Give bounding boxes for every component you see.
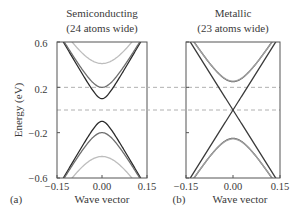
band-linear-down	[186, 110, 280, 185]
y-tick-0.2: 0.2	[34, 84, 47, 95]
band-valence-1	[57, 121, 147, 189]
panel-a-xlabel: Wave vector	[75, 193, 130, 205]
band-conduction-2	[57, 30, 147, 87]
panel-a-plot-area	[57, 22, 147, 198]
y-tick-neg0.2: −0.2	[28, 128, 47, 139]
panel-b-title: Metallic	[215, 7, 252, 19]
x-tick-0.00: 0.00	[224, 181, 242, 192]
y-axis-label: Energy (eV)	[12, 82, 25, 137]
x-tick-neg0.15: −0.15	[45, 181, 69, 192]
x-tick-0.00: 0.00	[93, 181, 111, 192]
panel-a-title: Semiconducting	[66, 7, 138, 19]
y-tick-0.6: 0.6	[34, 38, 47, 49]
panel-a-label: (a)	[10, 193, 23, 206]
panel-b-label: (b)	[173, 193, 186, 206]
panel-b-xlabel: Wave vector	[213, 193, 268, 205]
x-tick-0.15: 0.15	[138, 181, 156, 192]
band-linear-up	[186, 35, 280, 110]
panel-b-subtitle: (23 atoms wide)	[197, 22, 269, 35]
band-conduction-1	[57, 31, 147, 99]
panel-a: Semiconducting (24 atoms wide) 0.6 0.2 −…	[10, 7, 156, 206]
x-tick-0.15: 0.15	[271, 181, 289, 192]
band-conduction-a	[186, 30, 280, 82]
band-conduction-b	[186, 31, 280, 82]
band-structure-figure: Semiconducting (24 atoms wide) 0.6 0.2 −…	[0, 0, 302, 217]
panel-a-subtitle: (24 atoms wide)	[66, 22, 138, 35]
panel-b-plot-area	[146, 30, 280, 190]
panel-b: Metallic (23 atoms wide) −0.15 0.00 0.15…	[146, 7, 289, 206]
x-tick-neg0.15: −0.15	[174, 181, 198, 192]
